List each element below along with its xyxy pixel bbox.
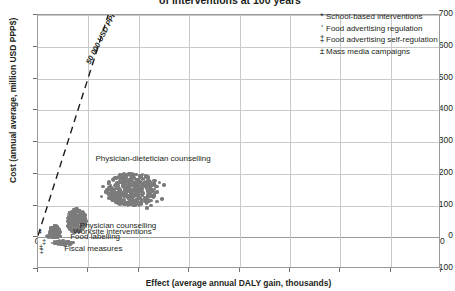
scatter-point <box>110 194 113 197</box>
scatter-point <box>153 195 156 198</box>
scatter-point <box>78 215 80 217</box>
scatter-point <box>100 195 103 198</box>
scatter-point <box>132 205 134 207</box>
scatter-point <box>148 193 152 197</box>
threshold-label: 50 000 USD PPP$/DALY <box>84 15 130 66</box>
scatter-point <box>141 194 144 197</box>
legend-symbol-icon: * <box>318 11 326 22</box>
scatter-point <box>141 178 144 181</box>
scatter-point <box>148 180 152 184</box>
legend-symbol-icon: ± <box>318 46 326 57</box>
gridline-horizontal <box>38 206 439 207</box>
x-axis-title: Effect (average annual DALY gain, thousa… <box>37 278 440 288</box>
point-label: Physician-dietetician counselling <box>95 154 210 163</box>
scatter-point <box>59 236 61 238</box>
scatter-point <box>118 202 122 206</box>
legend-label: Food advertising regulation <box>326 24 423 33</box>
legend-item: ‡Food advertising self-regulation <box>318 34 438 46</box>
legend-label: Mass media campaigns <box>326 47 410 56</box>
y-axis-title: Cost (annual average, million USD PPP$) <box>8 43 18 183</box>
scatter-point <box>134 183 138 187</box>
scatter-point <box>124 193 127 196</box>
scatter-point <box>137 179 140 182</box>
x-tick-mark <box>188 268 189 272</box>
scatter-point <box>71 215 74 218</box>
point-label: Food labelling <box>70 232 120 241</box>
scatter-point <box>116 200 119 203</box>
scatter-point <box>68 225 71 228</box>
gridline-horizontal <box>38 174 439 175</box>
scatter-point <box>57 244 59 246</box>
scatter-point <box>75 209 77 211</box>
point-label: Fiscal measures <box>64 244 122 253</box>
scatter-point <box>115 181 118 184</box>
gridline-horizontal <box>38 79 439 80</box>
x-tick-mark <box>37 268 38 272</box>
scatter-point <box>101 185 104 188</box>
legend-item: 'Food advertising regulation <box>318 23 438 35</box>
scatter-point <box>158 181 161 184</box>
scatter-point <box>72 222 76 226</box>
scatter-point <box>104 190 107 193</box>
x-tick-mark <box>138 268 139 272</box>
scatter-point <box>162 183 165 186</box>
x-tick-mark <box>87 268 88 272</box>
scatter-point <box>155 200 158 203</box>
gridline-vertical <box>290 15 291 267</box>
scatter-point <box>118 189 121 192</box>
scatter-point <box>128 190 131 193</box>
scatter-point <box>50 229 52 231</box>
chart-title: of interventions at 100 years <box>60 0 400 6</box>
scatter-point <box>49 233 52 236</box>
scatter-point <box>123 187 125 189</box>
scatter-point <box>153 179 156 182</box>
scatter-point <box>110 189 114 193</box>
legend-label: Food advertising self-regulation <box>326 35 438 44</box>
legend-symbol-icon: ' <box>318 23 326 34</box>
x-tick-mark <box>289 268 290 272</box>
x-tick-mark <box>390 268 391 272</box>
scatter-point <box>130 196 134 200</box>
gridline-vertical <box>240 15 241 267</box>
legend-label: School-based interventions <box>326 12 423 21</box>
gridline-horizontal <box>38 142 439 143</box>
scatter-point <box>128 203 132 207</box>
gridline-vertical <box>189 15 190 267</box>
legend-item: ±Mass media campaigns <box>318 46 438 58</box>
scatter-point <box>59 241 61 243</box>
scatter-point <box>139 202 143 206</box>
x-tick-mark <box>339 268 340 272</box>
x-tick-mark <box>440 268 441 272</box>
x-tick-mark <box>239 268 240 272</box>
scatter-point <box>149 204 152 207</box>
scatter-point <box>145 206 148 209</box>
gridline-horizontal <box>38 110 439 111</box>
legend-symbol-icon: ‡ <box>318 34 326 45</box>
scatter-point <box>122 180 125 183</box>
scatter-point <box>145 201 148 204</box>
symbol-marker: * <box>39 230 42 237</box>
legend-item: *School-based interventions <box>318 11 438 23</box>
scatter-point <box>107 186 110 189</box>
scatter-point <box>134 190 138 194</box>
symbol-marker: ‡ <box>40 247 44 254</box>
scatter-point <box>80 211 83 214</box>
legend: *School-based interventions'Food adverti… <box>318 11 438 57</box>
scatter-point <box>160 197 163 200</box>
